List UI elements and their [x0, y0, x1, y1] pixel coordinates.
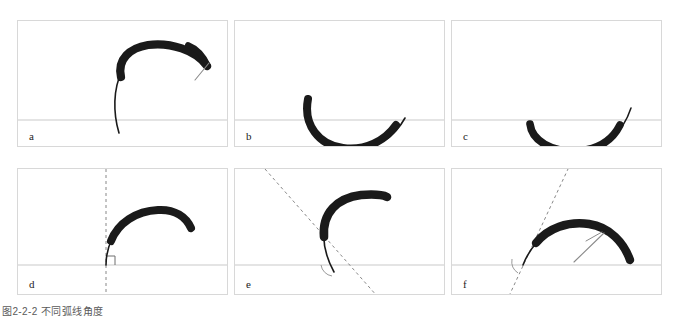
- right-angle-marker-icon: [106, 256, 115, 265]
- panel-label-f: f: [463, 279, 467, 290]
- panel-label-a: a: [29, 131, 34, 142]
- figure-panel-e: e: [234, 168, 445, 295]
- panel-f-drawing: [452, 169, 662, 295]
- figure-panel-d: d: [17, 168, 228, 295]
- brush-stroke-main: [530, 124, 620, 147]
- figure-panel-c: c: [451, 20, 662, 147]
- panel-c-drawing: [452, 21, 662, 147]
- panel-label-b: b: [246, 131, 252, 142]
- tangent-guide-line: [509, 169, 568, 295]
- panel-e-drawing: [235, 169, 445, 295]
- brush-stroke-main: [307, 99, 396, 147]
- angle-arc-marker-icon: [512, 259, 518, 273]
- panel-label-d: d: [29, 279, 35, 290]
- panel-label-e: e: [246, 279, 251, 290]
- panel-d-drawing: [18, 169, 228, 295]
- brush-stroke-main: [111, 210, 191, 241]
- figure-panel-b: b: [234, 20, 445, 147]
- panel-label-c: c: [463, 131, 468, 142]
- panel-b-drawing: [235, 21, 445, 147]
- angle-arc-marker-icon: [321, 265, 332, 276]
- brush-stroke-main: [324, 195, 387, 237]
- figure-panel-a: a: [17, 20, 228, 147]
- panel-grid: a b c: [17, 20, 662, 295]
- figure-panel-f: f: [451, 168, 662, 295]
- figure-caption: 图2-2-2 不同弧线角度: [2, 303, 302, 317]
- figure-root: a b c: [0, 0, 679, 317]
- panel-a-drawing: [18, 21, 228, 147]
- tangent-hook-icon: [574, 233, 604, 262]
- brush-stroke-main: [536, 223, 630, 260]
